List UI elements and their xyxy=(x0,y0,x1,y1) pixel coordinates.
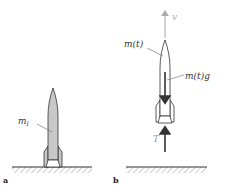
panel-label-a: a xyxy=(3,175,8,185)
mass-label-b: m(t) xyxy=(124,39,144,49)
panel-a: mI a xyxy=(3,88,92,185)
thrust-label: T xyxy=(153,134,160,144)
ground-b xyxy=(126,167,207,173)
velocity-label: v xyxy=(172,12,177,22)
rocket-a xyxy=(44,88,62,167)
ground-a xyxy=(12,167,92,173)
panel-b: v m(t) m(t)g T b xyxy=(113,12,210,185)
leader-line-mass-b xyxy=(147,48,163,56)
panel-label-b: b xyxy=(113,175,119,185)
mass-label-a: mI xyxy=(18,116,30,127)
rocket-diagram: mI a v m(t) m(t)g T b xyxy=(0,0,225,188)
weight-label: m(t)g xyxy=(185,71,210,81)
